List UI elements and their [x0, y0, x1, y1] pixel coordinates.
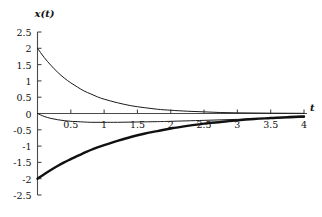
x-tick-label: 3: [234, 119, 240, 130]
x-tick-label: 1: [101, 119, 107, 130]
x-axis-label: t: [310, 102, 315, 113]
y-tick-label: -1: [0, 141, 32, 152]
y-tick-label: -2.5: [0, 190, 32, 201]
x-tick-label: 0.5: [63, 119, 78, 130]
x-tick-label: 2.5: [197, 119, 212, 130]
y-tick-label: -1.5: [0, 157, 32, 168]
y-axis-label: x(t): [35, 8, 55, 19]
chart-figure: 2.521.510.50-0.5-1-1.5-2-2.50.511.522.53…: [0, 0, 322, 217]
y-tick-label: 0.5: [0, 92, 32, 103]
y-tick-label: 2.5: [0, 27, 32, 38]
y-tick-label: 2: [0, 43, 32, 54]
x-tick-label: 2: [168, 119, 174, 130]
x-tick-label: 3.5: [263, 119, 278, 130]
y-tick-label: 0: [0, 108, 32, 119]
x-tick-label: 4: [301, 119, 307, 130]
x-tick-label: 1.5: [130, 119, 145, 130]
y-tick-label: -2: [0, 173, 32, 184]
series-line-decaying-positive: [38, 48, 305, 113]
y-tick-label: -0.5: [0, 124, 32, 135]
y-tick-label: 1.5: [0, 59, 32, 70]
y-tick-label: 1: [0, 75, 32, 86]
plot-canvas: [0, 0, 322, 217]
